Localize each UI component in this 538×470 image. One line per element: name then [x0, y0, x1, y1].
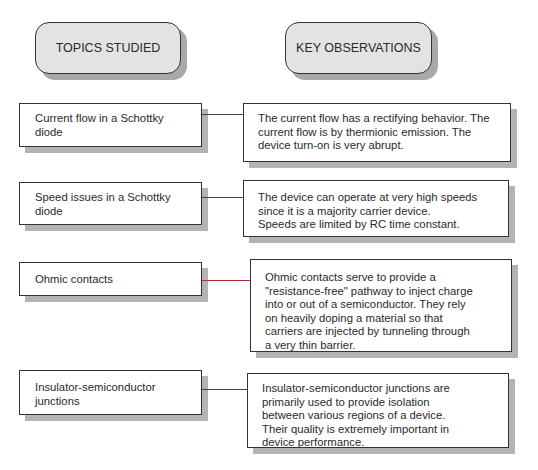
observation-box-speed-issues: The device can operate at very high spee…	[243, 180, 509, 237]
topic-label: Insulator-semiconductor junctions	[35, 381, 201, 408]
observation-text: Ohmic contacts serve to provide a "resis…	[265, 271, 511, 352]
header-topics-studied: TOPICS STUDIED	[35, 22, 181, 74]
observation-box-current-flow: The current flow has a rectifying behavi…	[243, 103, 511, 162]
topic-box-speed-issues: Speed issues in a Schottky diode	[19, 182, 202, 225]
observation-box-ohmic-contacts: Ohmic contacts serve to provide a "resis…	[250, 259, 512, 352]
header-key-observations: KEY OBSERVATIONS	[285, 22, 432, 74]
connector-line	[202, 114, 243, 115]
topic-label: Speed issues in a Schottky diode	[35, 191, 201, 218]
connector-line	[202, 197, 243, 198]
observation-box-insulator-semiconductor: Insulator-semiconductor junctions are pr…	[247, 373, 509, 448]
topic-box-insulator-semiconductor: Insulator-semiconductor junctions	[19, 370, 202, 415]
header-topics-label: TOPICS STUDIED	[56, 41, 161, 55]
connector-line-highlighted	[202, 280, 250, 281]
observation-text: Insulator-semiconductor junctions are pr…	[262, 382, 508, 450]
topic-label: Ohmic contacts	[35, 273, 201, 287]
connector-line	[202, 389, 247, 390]
observation-text: The current flow has a rectifying behavi…	[258, 112, 510, 153]
header-observations-label: KEY OBSERVATIONS	[296, 41, 421, 55]
topic-box-current-flow: Current flow in a Schottky diode	[19, 103, 202, 147]
topic-box-ohmic-contacts: Ohmic contacts	[19, 262, 202, 296]
topic-label: Current flow in a Schottky diode	[35, 112, 201, 139]
observation-text: The device can operate at very high spee…	[258, 191, 508, 232]
